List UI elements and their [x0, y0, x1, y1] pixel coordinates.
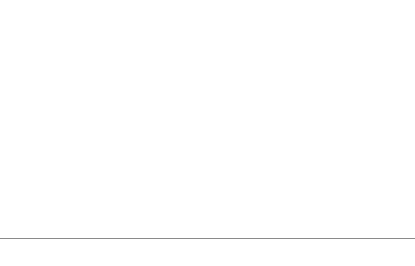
y-axis-ticks — [4, 0, 34, 266]
line-chart — [0, 0, 415, 266]
chart-legend — [0, 238, 415, 266]
plot-area — [38, 8, 410, 204]
